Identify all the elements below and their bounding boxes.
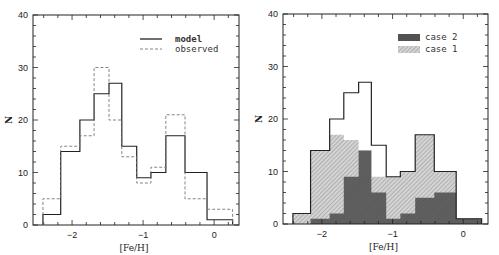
histogram-model [43, 83, 233, 225]
x-tick-label: −2 [317, 229, 327, 239]
histogram-observed [43, 68, 233, 226]
x-axis-label: [Fe/H] [369, 242, 398, 252]
legend-swatch-case-2 [398, 34, 420, 41]
y-axis-label: N [4, 116, 14, 124]
y-tick-label: 10 [268, 167, 278, 177]
y-tick-label: 20 [18, 115, 28, 125]
y-tick-label: 30 [268, 62, 278, 72]
legend-label: case 2 [425, 32, 458, 42]
legend-label: model [175, 34, 202, 44]
right-chart: 010203040−2−10[Fe/H]Ncase 2case 1 [250, 0, 499, 255]
x-tick-label: −1 [387, 229, 397, 239]
y-tick-label: 30 [18, 63, 28, 73]
legend-label: case 1 [425, 44, 458, 54]
y-tick-label: 40 [18, 10, 28, 20]
y-tick-label: 0 [273, 219, 278, 229]
y-tick-label: 20 [268, 114, 278, 124]
y-tick-label: 10 [18, 168, 28, 178]
x-tick-label: −2 [67, 230, 77, 240]
right-chart-panel: 010203040−2−10[Fe/H]Ncase 2case 1 [250, 0, 499, 255]
x-tick-label: 0 [212, 230, 217, 240]
x-tick-label: −1 [138, 230, 148, 240]
y-tick-label: 40 [268, 9, 278, 19]
x-tick-label: 0 [461, 229, 466, 239]
y-tick-label: 0 [23, 220, 28, 230]
legend-swatch-case-1 [398, 46, 420, 53]
x-axis-label: [Fe/H] [120, 243, 149, 253]
y-axis-label: N [254, 115, 264, 123]
left-chart: 010203040−2−10[Fe/H]Nmodelobserved [0, 0, 250, 255]
left-chart-panel: 010203040−2−10[Fe/H]Nmodelobserved [0, 0, 250, 255]
legend-label: observed [175, 44, 218, 54]
